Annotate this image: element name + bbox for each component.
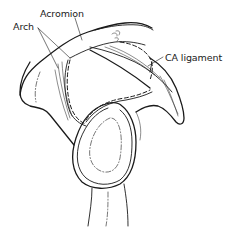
acromion-label: Acromion [40,9,84,19]
arch-label: Arch [13,22,34,32]
scapula-inner-contour [35,72,40,102]
arch-dashed-outline [67,60,86,124]
acromion-tip-detail [112,31,120,41]
ca-ligament-label: CA ligament [165,53,222,63]
scapula-right-contour [136,112,141,140]
acromion-lower-edge [70,42,145,58]
glenoid-top-solid [86,92,152,122]
scapula-neck-inner [106,192,108,226]
glenoid-inner [90,118,122,172]
glenoid-outer [73,103,136,189]
scapula-neck-left [88,188,92,226]
scapula-illustration [0,0,231,227]
coracoid-outline [136,58,184,124]
scapula-neck-right [124,184,128,226]
ca-ligament-band-lower [90,47,172,92]
